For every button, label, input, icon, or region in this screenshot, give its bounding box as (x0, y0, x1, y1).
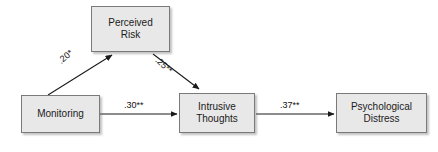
node-perceived-risk-label: Perceived Risk (106, 17, 154, 41)
node-monitoring-label: Monitoring (35, 108, 86, 120)
node-intrusive-thoughts: Intrusive Thoughts (179, 93, 255, 133)
node-psychological-distress: Psychological Distress (336, 93, 427, 133)
edge-label-monitoring-intrusive-thoughts: .30** (124, 100, 144, 110)
path-diagram: Perceived Risk Monitoring Intrusive Thou… (0, 0, 438, 152)
node-intrusive-thoughts-label: Intrusive Thoughts (194, 101, 240, 125)
node-psychological-distress-label: Psychological Distress (349, 101, 414, 125)
node-perceived-risk: Perceived Risk (91, 6, 170, 52)
edge-label-intrusive-thoughts-psychological-distress: .37** (280, 100, 300, 110)
node-monitoring: Monitoring (21, 95, 100, 133)
